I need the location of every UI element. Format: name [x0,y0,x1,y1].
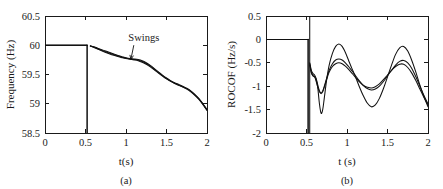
y-tick-label: 0 [256,34,261,45]
y-tick-label: -1 [252,81,261,92]
curve-post-event [310,44,428,113]
panel-caption: (a) [120,175,132,187]
curve-post-event [90,46,207,110]
x-tick-label: 0.5 [79,137,92,148]
curve-post-event [310,63,428,105]
y-tick-label: 58.5 [22,128,40,139]
y-axis-title: ROCOF (Hz/s) [225,41,238,108]
x-tick-label: 1 [123,137,128,148]
y-tick-label: 60.5 [22,11,40,22]
y-tick-label: 0.5 [248,11,261,22]
curve-post-event [310,59,428,104]
x-axis-title: t (s) [338,155,356,168]
x-tick-label: 1.5 [381,137,394,148]
x-tick-label: 1 [344,137,349,148]
plot-frame [266,16,428,133]
panel-caption: (b) [341,175,354,187]
curves-group [45,45,207,133]
x-tick-label: 1.5 [160,137,173,148]
rocof-plot-svg: 00.511.52-2-1.5-1-0.500.5t (s)ROCOF (Hz/… [221,0,442,189]
plot-frame [45,16,207,133]
curves-group [266,16,428,133]
x-tick-label: 2 [204,137,209,148]
x-axis-title: t(s) [119,155,134,168]
y-tick-label: -0.5 [244,57,261,68]
curve-post-event [90,46,207,110]
swings-annotation-label: Swings [128,32,159,43]
y-axis-title: Frequency (Hz) [4,40,17,110]
y-tick-label: 60 [30,40,41,51]
x-tick-label: 0.5 [300,137,313,148]
x-tick-label: 0 [42,137,47,148]
curve-post-event [90,46,207,110]
x-tick-label: 0 [263,137,268,148]
panel-frequency: 00.511.5258.55959.56060.5Swingst(s)Frequ… [0,0,221,189]
x-tick-label: 2 [425,137,430,148]
y-tick-label: -2 [252,128,261,139]
panel-rocof: 00.511.52-2-1.5-1-0.500.5t (s)ROCOF (Hz/… [221,0,442,189]
frequency-plot-svg: 00.511.5258.55959.56060.5Swingst(s)Frequ… [0,0,221,189]
y-tick-label: -1.5 [244,104,261,115]
y-tick-label: 59 [30,98,41,109]
figure-container: 00.511.5258.55959.56060.5Swingst(s)Frequ… [0,0,443,189]
y-tick-label: 59.5 [22,69,40,80]
